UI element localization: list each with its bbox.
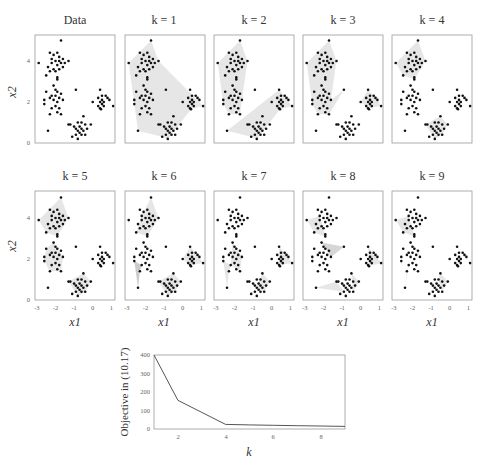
- xtick: -2: [410, 304, 415, 311]
- objective-ytick: 400: [140, 351, 150, 358]
- objective-xtick: 4: [224, 433, 228, 440]
- panel-title-data: Data: [64, 13, 87, 27]
- xtick: -2: [143, 304, 148, 311]
- objective-ytick: 0: [147, 425, 150, 432]
- xtick: -1: [250, 304, 255, 311]
- objective-y-label: Objective in (10.17): [118, 347, 131, 436]
- xtick: -2: [232, 304, 237, 311]
- xtick: -3: [213, 304, 218, 311]
- ytick-2: 2: [27, 98, 30, 105]
- objective-x-label: k: [246, 445, 252, 459]
- panel-title-k6: k = 6: [152, 169, 177, 183]
- xtick: 1: [467, 304, 470, 311]
- xtick: -2: [53, 304, 58, 311]
- objective-ytick: 100: [140, 407, 150, 414]
- xtick: -3: [34, 304, 39, 311]
- panel-title-k1: k = 1: [152, 13, 177, 27]
- xtick: 1: [289, 304, 292, 311]
- panel-title-k4: k = 4: [420, 13, 445, 27]
- xtick: -1: [161, 304, 166, 311]
- xtick: -3: [391, 304, 396, 311]
- ytick-0: 0: [27, 139, 30, 146]
- xtick: -1: [339, 304, 344, 311]
- xtick: -2: [321, 304, 326, 311]
- y-axis-label-row2: x2: [5, 240, 19, 252]
- xtick: -3: [302, 304, 307, 311]
- xtick: 1: [110, 304, 113, 311]
- xtick: -1: [71, 304, 76, 311]
- x-axis-label: x1: [336, 315, 348, 329]
- ytick-2: 2: [27, 255, 30, 262]
- x-axis-label: x1: [68, 315, 80, 329]
- x-axis-label: x1: [247, 315, 259, 329]
- objective-xtick: 8: [319, 433, 322, 440]
- objective-xtick: 6: [271, 433, 275, 440]
- xtick: 1: [200, 304, 203, 311]
- panel-title-k8: k = 8: [331, 169, 356, 183]
- xtick: 0: [448, 304, 451, 311]
- ytick-4: 4: [27, 214, 31, 221]
- xtick: 1: [378, 304, 381, 311]
- xtick: -3: [124, 304, 129, 311]
- y-axis-label-row1: x2: [5, 86, 19, 98]
- figure: Data k = 1 k = 2 k = 3 k = 4 k = 5 k = 6…: [0, 0, 483, 465]
- x-axis-row2: -3-2-101-3-2-101-3-2-101-3-2-101-3-2-101…: [34, 304, 470, 329]
- x-axis-label: x1: [425, 315, 437, 329]
- xtick: 0: [181, 304, 184, 311]
- ytick-0: 0: [27, 296, 30, 303]
- xtick: 0: [359, 304, 362, 311]
- objective-chart: Objective in (10.17) 0 100 200 300 400 2…: [118, 347, 345, 459]
- objective-curve: [154, 355, 345, 426]
- xtick: -1: [428, 304, 433, 311]
- panel-title-k2: k = 2: [242, 13, 267, 27]
- panel-title-k5: k = 5: [63, 169, 88, 183]
- xtick: 0: [270, 304, 273, 311]
- panel-title-k7: k = 7: [242, 169, 267, 183]
- ytick-4: 4: [27, 57, 31, 64]
- panel-title-k9: k = 9: [420, 169, 445, 183]
- objective-ytick: 200: [140, 388, 150, 395]
- xtick: 0: [91, 304, 94, 311]
- objective-xtick: 2: [176, 433, 179, 440]
- panel-title-k3: k = 3: [331, 13, 356, 27]
- x-axis-label: x1: [157, 315, 169, 329]
- objective-ytick: 300: [140, 370, 150, 377]
